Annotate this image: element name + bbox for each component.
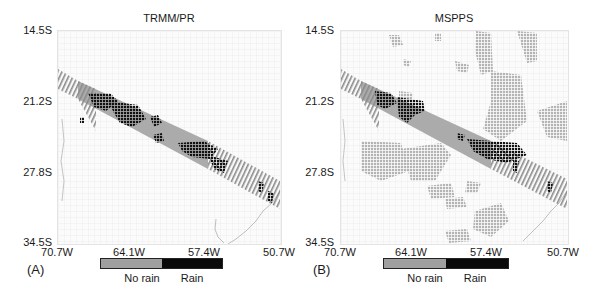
- legend-label-rain: Rain: [445, 272, 505, 284]
- y-tick-label: 14.5S: [12, 24, 52, 36]
- panel-b: MSPPS 14.5S 21.2S 27.8S 34.5S: [300, 0, 600, 306]
- rain-map-trmm: [57, 30, 282, 245]
- panel-title: TRMM/PR: [57, 12, 281, 24]
- legend-label-rain: Rain: [162, 272, 222, 284]
- x-tick-label: 50.7W: [538, 246, 588, 258]
- x-tick-label: 70.7W: [315, 246, 365, 258]
- legend-colorbar: [100, 258, 223, 269]
- x-tick-label: 64.1W: [386, 246, 436, 258]
- x-tick-label: 70.7W: [32, 246, 82, 258]
- y-tick-label: 21.2S: [12, 95, 52, 107]
- panel-label: (B): [313, 262, 330, 277]
- y-tick-label: 21.2S: [294, 95, 334, 107]
- rain-map-mspps: [340, 30, 569, 245]
- y-tick-label: 27.8S: [12, 166, 52, 178]
- panel-a: TRMM/PR 14.5S 21.2S 27.8S 34.5S: [0, 0, 300, 306]
- colorbar-no-rain-swatch: [384, 259, 446, 268]
- panel-label: (A): [27, 262, 44, 277]
- panel-title: MSPPS: [340, 12, 568, 24]
- legend-colorbar: [383, 258, 509, 269]
- colorbar-rain-swatch: [446, 259, 508, 268]
- colorbar-rain-swatch: [162, 259, 223, 268]
- y-tick-label: 27.8S: [294, 166, 334, 178]
- x-tick-label: 57.4W: [461, 246, 511, 258]
- colorbar-no-rain-swatch: [101, 259, 162, 268]
- x-tick-label: 57.4W: [179, 246, 229, 258]
- x-tick-label: 64.1W: [104, 246, 154, 258]
- y-tick-label: 14.5S: [294, 24, 334, 36]
